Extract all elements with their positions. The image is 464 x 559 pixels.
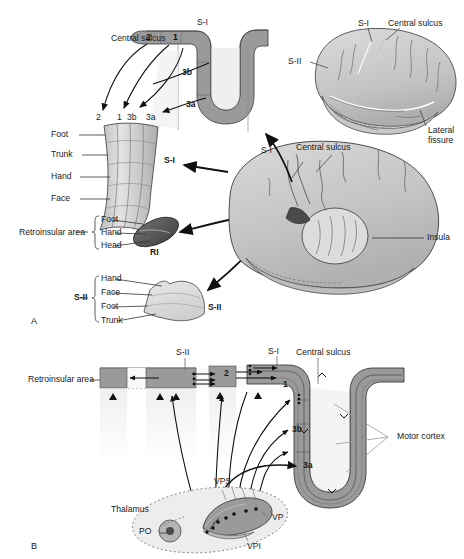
- label-si-lateral-brain: S-I: [358, 19, 369, 28]
- area-1-strip: 1: [117, 113, 122, 122]
- si-part-face: Face: [51, 194, 70, 203]
- label-thalamus: Thalamus: [111, 505, 149, 514]
- label-sii-b: S-II: [176, 348, 189, 357]
- label-vps-nucleus: VPS: [214, 477, 231, 486]
- label-central-sulcus-section: Central sulcus: [111, 34, 165, 43]
- label-po-nucleus: PO: [139, 527, 151, 536]
- si-part-foot: Foot: [51, 130, 68, 139]
- area-1-b: 1: [283, 380, 288, 389]
- ri-part-foot: Foot: [101, 215, 118, 224]
- area-3b-strip: 3b: [127, 113, 137, 122]
- label-retroinsular-area: Retroinsular area: [19, 228, 85, 237]
- sii-part-foot: Foot: [101, 302, 118, 311]
- sii-part-face: Face: [101, 288, 120, 297]
- label-sii-region: S-II: [208, 303, 221, 312]
- label-si-section: S-I: [197, 18, 208, 27]
- area-3b-b: 3b: [292, 425, 302, 434]
- panel-label-b: B: [31, 541, 37, 551]
- panel-b-circuit: [90, 356, 404, 559]
- label-lateral-fissure-line1: Lateral: [428, 126, 454, 135]
- area-3b-section: 3b: [182, 68, 192, 77]
- label-si-strip: S-I: [164, 156, 175, 165]
- label-vp-nucleus: VP: [272, 513, 283, 522]
- ri-part-hand: Hand: [101, 228, 122, 237]
- label-motor-cortex: Motor cortex: [397, 432, 445, 441]
- area-3a-strip: 3a: [146, 113, 156, 122]
- label-ri-region: RI: [150, 248, 159, 257]
- panel-label-a: A: [31, 316, 37, 326]
- label-sii-bracket: S-II: [74, 293, 87, 302]
- label-si-big-brain: S-I: [261, 146, 272, 155]
- brain-lateral-large: [229, 134, 439, 294]
- figure-canvas: S-I Central sulcus 2 1 3b 3a 2 1 3b 3a F…: [0, 0, 464, 559]
- brain-lateral-small: [310, 28, 456, 134]
- label-sii-lateral-brain: S-II: [288, 57, 301, 66]
- area-2-b: 2: [224, 369, 229, 378]
- figure-vector-layer: [0, 0, 464, 559]
- sii-part-hand: Hand: [101, 274, 122, 283]
- sii-part-trunk: Trunk: [101, 316, 123, 325]
- label-central-sulcus-b: Central sulcus: [296, 348, 350, 357]
- si-part-hand: Hand: [51, 172, 72, 181]
- label-si-b: S-I: [268, 347, 279, 356]
- area-2-strip: 2: [96, 113, 101, 122]
- label-central-sulcus-lateral-brain: Central sulcus: [388, 19, 442, 28]
- area-1-section: 1: [173, 33, 178, 42]
- label-insula: Insula: [427, 233, 450, 242]
- label-vpi-nucleus: VPI: [247, 542, 261, 551]
- ri-part-head: Head: [101, 241, 122, 250]
- label-lateral-fissure-line2: fissure: [428, 136, 453, 145]
- area-2-section: 2: [146, 33, 151, 42]
- area-3a-section: 3a: [186, 100, 196, 109]
- si-part-trunk: Trunk: [51, 150, 73, 159]
- label-retroinsular-area-b: Retroinsular area: [28, 375, 94, 384]
- area-3a-b: 3a: [303, 461, 313, 470]
- label-central-sulcus-big-brain: Central sulcus: [296, 143, 350, 152]
